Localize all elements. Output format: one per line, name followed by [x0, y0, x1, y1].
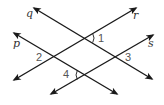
angle-label-3: 3: [125, 51, 131, 63]
line-label-r: r: [133, 9, 139, 22]
angle-label-2: 2: [36, 51, 42, 63]
angle-4-arc: [76, 71, 77, 80]
line-label-p: p: [13, 37, 20, 50]
angle-1-arc: [93, 34, 94, 43]
line-label-s: s: [148, 37, 154, 50]
angle-label-4: 4: [63, 68, 69, 80]
angle-label-1: 1: [98, 32, 104, 44]
intersecting-lines-diagram: q r p s 1 2 3 4: [0, 0, 164, 105]
line-label-q: q: [26, 7, 33, 20]
